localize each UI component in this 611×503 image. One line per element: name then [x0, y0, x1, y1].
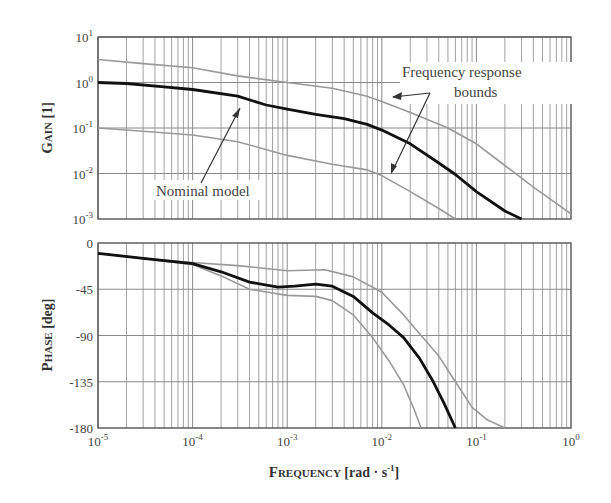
tick-label: 10-1: [466, 432, 487, 449]
tick-label: 10-4: [182, 432, 203, 449]
tick-label: 10-1: [73, 119, 94, 136]
tick-label: 10-3: [277, 432, 298, 449]
annotation-bounds: bounds: [454, 84, 498, 100]
annotation-nominal-model: Nominal model: [156, 183, 250, 199]
bode-plot: 10110010-110-210-3 0-45-90-135-18010-510…: [0, 0, 611, 503]
tick-label: -45: [76, 282, 93, 297]
tick-label: 10-2: [372, 432, 393, 449]
tick-label: -135: [69, 375, 93, 390]
phase-axis-label: PHASE [deg]: [39, 299, 55, 372]
tick-label: 100: [562, 432, 580, 449]
tick-label: 0: [87, 236, 94, 251]
tick-label: -90: [76, 329, 93, 344]
tick-label: 101: [76, 28, 94, 45]
tick-label: 10-2: [73, 165, 94, 182]
gain-axis-label: GAIN [1]: [39, 102, 55, 154]
annotation-frequency-response: Frequency response: [402, 64, 522, 80]
tick-label: 100: [76, 74, 94, 91]
frequency-axis-label: FREQUENCY [rad · s-1]: [269, 463, 400, 480]
phase-panel: 0-45-90-135-18010-510-410-310-210-1100: [69, 236, 580, 449]
tick-label: 10-5: [88, 432, 109, 449]
tick-label: 10-3: [73, 210, 94, 227]
gain-panel: 10110010-110-210-3: [73, 28, 572, 227]
